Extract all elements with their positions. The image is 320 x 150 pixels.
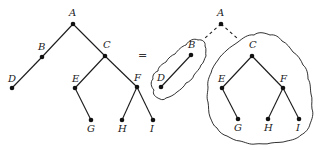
right-node-g: [236, 117, 241, 122]
left-subtree-outline: [151, 39, 206, 99]
label-h: H: [117, 123, 127, 134]
dashed-edge-a-right: [221, 24, 237, 38]
edge-b-d-right: [161, 55, 191, 87]
label-d: D: [7, 73, 16, 84]
edge-f-i: [137, 87, 153, 120]
right-label-b: B: [187, 39, 195, 50]
edge-c-e-right: [222, 56, 252, 88]
node-f: [135, 85, 140, 90]
edge-c-e: [75, 56, 105, 88]
node-b: [40, 55, 45, 60]
node-e: [73, 86, 78, 91]
label-c: C: [103, 39, 111, 50]
label-f: F: [133, 72, 142, 83]
right-node-f: [281, 86, 286, 91]
label-a: A: [68, 7, 76, 18]
edge-f-h-right: [268, 88, 283, 119]
edge-b-d: [12, 57, 42, 88]
edge-c-f: [105, 56, 137, 87]
right-node-i: [297, 117, 302, 122]
label-b: B: [37, 41, 45, 52]
root-label-a: A: [216, 7, 224, 18]
dashed-edge-a-left: [205, 24, 221, 38]
label-g: G: [87, 123, 95, 134]
right-label-h: H: [263, 122, 273, 133]
right-label-i: I: [295, 122, 301, 133]
right-label-d: D: [156, 72, 165, 83]
node-c: [103, 54, 108, 59]
edge-a-b: [42, 24, 73, 57]
edge-e-g: [75, 88, 91, 120]
edge-f-h: [122, 87, 137, 120]
label-i: I: [149, 123, 155, 134]
right-label-g: G: [234, 122, 242, 133]
edge-a-c: [73, 24, 105, 56]
tree-diagram: A B C D E F G H I = A B D: [0, 0, 320, 150]
node-g: [89, 118, 94, 123]
right-tree: A B D C E F G H I: [151, 7, 313, 144]
edge-c-f-right: [252, 56, 283, 88]
left-tree: A B C D E F G H I: [7, 7, 155, 134]
right-node-h: [266, 117, 271, 122]
right-label-c: C: [249, 39, 257, 50]
right-node-b: [189, 53, 194, 58]
label-e: E: [71, 73, 80, 84]
node-i: [151, 118, 156, 123]
right-node-d: [159, 85, 164, 90]
right-label-f: F: [279, 73, 288, 84]
right-node-c: [250, 54, 255, 59]
node-d: [10, 86, 15, 91]
right-label-e: E: [217, 73, 226, 84]
edge-e-g-right: [222, 88, 238, 119]
equals-sign: =: [138, 49, 147, 62]
node-h: [120, 118, 125, 123]
right-node-e: [220, 86, 225, 91]
root-node-a: [219, 22, 224, 27]
node-a: [71, 22, 76, 27]
edge-f-i-right: [283, 88, 299, 119]
